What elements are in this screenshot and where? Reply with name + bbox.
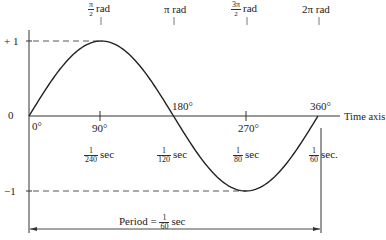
time-label-1-80: 180sec	[233, 147, 259, 164]
degree-label-360: 360°	[310, 101, 331, 112]
degree-label-270: 270°	[238, 123, 259, 134]
diagram-graphics	[0, 0, 386, 240]
radian-label-3pi-over-2: 3π2rad	[231, 1, 257, 18]
sine-wave-diagram: + 1 0 −1 Time axis 0° 90° 180° 270° 360°…	[0, 0, 386, 240]
degree-label-180: 180°	[172, 101, 193, 112]
degree-label-0: 0°	[32, 121, 42, 132]
radian-label-pi-over-2: π2rad	[88, 1, 110, 18]
label-zero: 0	[8, 110, 14, 121]
period-label: Period = 160sec	[119, 214, 185, 231]
time-label-1-240: 1240sec	[84, 147, 114, 164]
time-label-1-120: 1120sec	[157, 147, 187, 164]
radian-label-pi: π rad	[164, 4, 186, 15]
label-minus-one: −1	[4, 186, 16, 197]
label-plus-one: + 1	[4, 36, 18, 47]
arrow-right-icon	[313, 227, 320, 231]
time-axis-label: Time axis	[344, 111, 385, 122]
arrow-left-icon	[30, 227, 37, 231]
time-label-1-60: 160sec.	[309, 147, 338, 164]
radian-label-2pi: 2π rad	[302, 4, 330, 15]
degree-label-90: 90°	[92, 123, 107, 134]
